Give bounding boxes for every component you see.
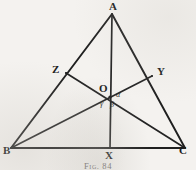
label-angle-beta: β [110, 101, 114, 109]
label-point-Y: Y [157, 66, 165, 77]
figure-caption: Fig. 84 [0, 161, 196, 170]
point-O-marker [108, 95, 111, 98]
cevian-BY [11, 76, 152, 148]
label-point-X: X [105, 150, 113, 161]
point-markers [65, 72, 153, 149]
label-point-O: O [99, 83, 108, 94]
label-angle-gamma: γ [100, 100, 103, 108]
point-Z-marker [65, 72, 67, 74]
label-point-Z: Z [52, 64, 59, 75]
label-point-A: A [109, 1, 117, 12]
segment-CA [112, 14, 185, 148]
point-Y-marker [151, 75, 153, 77]
cevian-AX [110, 14, 112, 148]
triangle-outline [11, 14, 185, 148]
label-point-B: B [3, 145, 10, 156]
segment-AB [11, 14, 112, 148]
figure-drawing-canvas [0, 0, 196, 170]
label-point-C: C [179, 145, 187, 156]
label-angle-alpha: α [116, 91, 120, 99]
geometry-figure: A B C X Y Z O α β γ Fig. 84 [0, 0, 196, 170]
